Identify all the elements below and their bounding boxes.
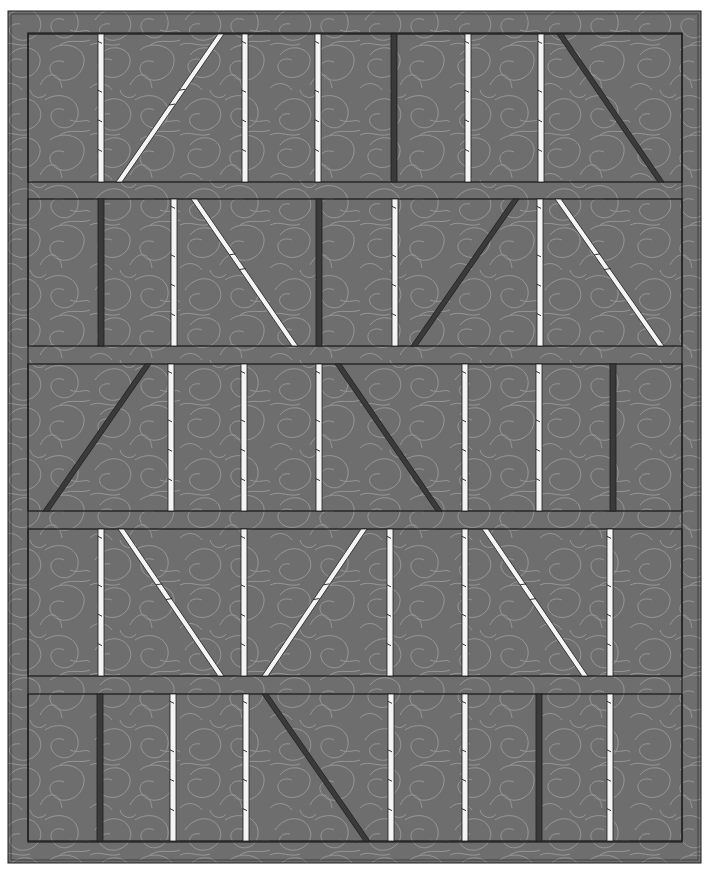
row-5-strip-6-light-vertical	[462, 694, 468, 841]
row-1-strip-5-dark-vertical	[391, 34, 397, 182]
row-2-strip-1-dark-vertical	[98, 199, 104, 346]
row-3-strip-7-light-vertical	[536, 364, 542, 511]
row-4-strip-5-light-vertical	[387, 529, 393, 676]
row-3-strip-2-light-vertical	[168, 364, 174, 511]
row-3-strip-8-dark-vertical	[610, 364, 616, 511]
row-4-strip-1-light-vertical	[98, 529, 104, 676]
row-1-strip-4-light-vertical	[315, 34, 321, 182]
row-4-strip-8-light-vertical	[607, 529, 613, 676]
row-3-strip-3-light-vertical	[241, 364, 247, 511]
row-1-strip-7-light-vertical	[538, 34, 544, 182]
outer-border	[8, 11, 701, 863]
row-5-strip-5-light-vertical	[388, 694, 394, 841]
quilt-canvas	[0, 0, 708, 874]
quilt	[8, 11, 701, 863]
row-4-strip-6-light-vertical	[462, 529, 468, 676]
row-2-strip-2-light-vertical	[171, 199, 177, 346]
row-5-strip-7-dark-vertical	[536, 694, 542, 841]
row-4-strip-3-light-vertical	[241, 529, 247, 676]
row-5-strip-1-dark-vertical	[97, 694, 103, 841]
row-5-strip-8-light-vertical	[607, 694, 613, 841]
row-3-strip-4-light-vertical	[316, 364, 322, 511]
row-5-strip-2-light-vertical	[170, 694, 176, 841]
row-3-strip-6-light-vertical	[462, 364, 468, 511]
row-5-strip-3-light-vertical	[243, 694, 249, 841]
row-1-strip-6-light-vertical	[465, 34, 471, 182]
row-2-strip-5-light-vertical	[392, 199, 398, 346]
row-2-strip-4-dark-vertical	[316, 199, 322, 346]
row-1-strip-1-light-vertical	[98, 34, 104, 182]
row-2-strip-7-light-vertical	[537, 199, 543, 346]
row-1-strip-3-light-vertical	[242, 34, 248, 182]
